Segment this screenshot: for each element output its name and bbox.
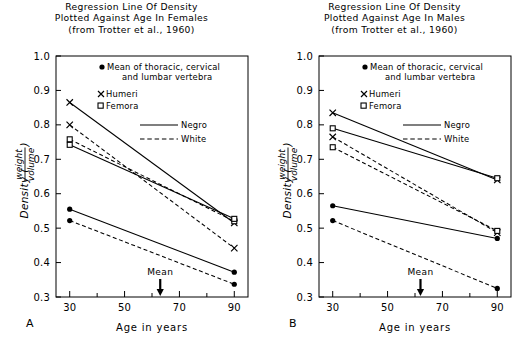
legend-vertebra-line2: and lumbar vertebra [122, 72, 212, 82]
legend-negro: Negro [444, 120, 470, 130]
svg-text:): ) [18, 142, 30, 147]
y-tick-label: 0.8 [33, 119, 50, 130]
svg-text:): ) [281, 142, 293, 147]
series-line [333, 113, 498, 180]
mean-label: Mean [147, 267, 173, 277]
series-line [333, 206, 498, 239]
series-line [70, 209, 235, 272]
legend-humeri: Humeri [369, 89, 401, 99]
legend-femora: Femora [369, 101, 402, 111]
y-tick-label: 0.9 [296, 85, 313, 96]
y-tick-label: 0.6 [296, 188, 313, 199]
legend-humeri: Humeri [106, 89, 138, 99]
series-line [70, 102, 235, 223]
series-line [70, 145, 235, 219]
x-tick-label: 50 [381, 302, 394, 313]
y-axis-label: Density (weightvolume) [277, 142, 299, 218]
y-axis-label: Density (weightvolume) [14, 142, 36, 218]
x-tick-label: 30 [326, 302, 339, 313]
legend-vertebra-line1: Mean of thoracic, cervical [107, 62, 220, 72]
y-tick-label: 0.3 [296, 292, 313, 303]
series-markers [67, 137, 237, 224]
svg-text:volume: volume [289, 147, 299, 181]
panel-a: Regression Line Of Density Plotted Again… [0, 0, 263, 340]
series-line [333, 221, 498, 289]
x-tick-label: 30 [63, 302, 76, 313]
plot-a-svg: 1.00.90.80.70.60.50.40.330507090Mean of … [0, 0, 263, 340]
panel-letter: A [26, 317, 34, 330]
series-line [70, 139, 235, 221]
x-axis-label: Age in years [379, 322, 451, 333]
x-tick-label: 90 [491, 302, 504, 313]
legend-vertebra-line1: Mean of thoracic, cervical [370, 62, 483, 72]
panel-b: Regression Line Of Density Plotted Again… [263, 0, 526, 340]
x-tick-label: 70 [173, 302, 186, 313]
y-tick-label: 0.6 [33, 188, 50, 199]
y-tick-label: 1.0 [33, 51, 50, 62]
y-tick-label: 0.4 [33, 257, 50, 268]
y-tick-label: 0.9 [33, 85, 50, 96]
x-axis-label: Age in years [116, 322, 188, 333]
figure-root: Regression Line Of Density Plotted Again… [0, 0, 526, 340]
plot-b-svg: 1.00.90.80.70.60.50.40.330507090Mean of … [263, 0, 526, 340]
panel-letter: B [289, 317, 297, 330]
y-tick-label: 0.5 [296, 223, 313, 234]
svg-text:weight: weight [14, 149, 24, 180]
svg-text:weight: weight [277, 149, 287, 180]
legend-negro: Negro [181, 120, 207, 130]
x-tick-label: 70 [436, 302, 449, 313]
svg-text:volume: volume [26, 147, 36, 181]
y-tick-label: 0.4 [296, 257, 313, 268]
series-line [70, 125, 235, 248]
legend-vertebra-line2: and lumbar vertebra [385, 72, 475, 82]
x-tick-label: 90 [228, 302, 241, 313]
mean-label: Mean [407, 267, 433, 277]
series-line [333, 128, 498, 178]
legend-femora: Femora [106, 101, 139, 111]
legend-white: White [444, 134, 469, 144]
series-line [333, 137, 498, 233]
series-markers [330, 145, 500, 234]
x-tick-label: 50 [118, 302, 131, 313]
legend-white: White [181, 134, 206, 144]
y-tick-label: 0.8 [296, 119, 313, 130]
y-tick-label: 0.5 [33, 223, 50, 234]
y-tick-label: 0.3 [33, 292, 50, 303]
y-tick-label: 1.0 [296, 51, 313, 62]
